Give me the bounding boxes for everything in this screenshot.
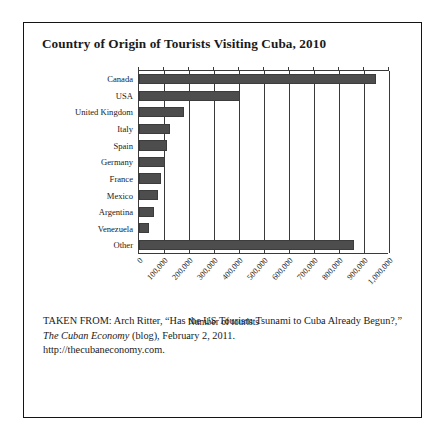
- x-axis-tick: [263, 67, 264, 71]
- bar-row: [139, 170, 388, 187]
- bar-series: [139, 71, 388, 253]
- x-axis-tick: [388, 67, 389, 71]
- x-axis-tick-label: 1,000,000: [388, 232, 417, 262]
- y-axis-label: Mexico: [24, 187, 138, 204]
- y-axis-label: United Kingdom: [24, 104, 138, 121]
- y-axis-label: Venezuela: [24, 221, 138, 238]
- x-axis-tick: [188, 67, 189, 71]
- x-axis-tick: [138, 67, 139, 71]
- y-axis-label: Argentina: [24, 204, 138, 221]
- y-axis-category-labels: CanadaUSAUnited KingdomItalySpainGermany…: [24, 71, 138, 254]
- bar: [139, 207, 154, 217]
- plot-area: [138, 71, 388, 254]
- x-axis-tick-label: 0: [138, 253, 147, 262]
- x-axis-tick: [238, 67, 239, 71]
- y-axis-label: Other: [24, 237, 138, 254]
- x-axis-tick: [163, 67, 164, 71]
- bar-row: [139, 88, 388, 105]
- bar-row: [139, 104, 388, 121]
- bar-row: [139, 121, 388, 138]
- x-axis-tick: [213, 67, 214, 71]
- caption-italic-source: The Cuban Economy: [43, 330, 129, 341]
- bar: [139, 91, 240, 101]
- caption-suffix: (blog), February 2, 2011.: [129, 330, 235, 341]
- bar: [139, 173, 161, 183]
- bar: [139, 74, 376, 84]
- x-axis-tick: [313, 67, 314, 71]
- source-caption: TAKEN FROM: Arch Ritter, “Has the US Tou…: [43, 314, 405, 358]
- bar: [139, 223, 149, 233]
- bar-row: [139, 71, 388, 88]
- x-axis-tick-labels: 0100,000200,000300,000400,000500,000600,…: [138, 256, 388, 308]
- y-axis-label: Spain: [24, 138, 138, 155]
- bar: [139, 190, 158, 200]
- bar-row: [139, 137, 388, 154]
- bar: [139, 157, 165, 167]
- x-axis-tick: [363, 67, 364, 71]
- bar: [139, 124, 170, 134]
- x-axis-tick: [288, 67, 289, 71]
- y-axis-label: Italy: [24, 121, 138, 138]
- bar: [139, 107, 184, 117]
- bar: [139, 140, 167, 150]
- caption-prefix: TAKEN FROM: Arch Ritter, “Has the US Tou…: [43, 315, 402, 326]
- y-axis-label: Canada: [24, 71, 138, 88]
- chart-title: Country of Origin of Tourists Visiting C…: [42, 36, 326, 52]
- plot-wrapper: CanadaUSAUnited KingdomItalySpainGermany…: [24, 71, 422, 281]
- bar-row: [139, 220, 388, 237]
- y-axis-label: Germany: [24, 154, 138, 171]
- figure-panel: Country of Origin of Tourists Visiting C…: [23, 22, 422, 418]
- caption-url: http://thecubaneconomy.com.: [43, 344, 165, 355]
- bar-row: [139, 203, 388, 220]
- bar-row: [139, 154, 388, 171]
- bar-row: [139, 187, 388, 204]
- x-axis-tick: [338, 67, 339, 71]
- y-axis-label: France: [24, 171, 138, 188]
- gridline: [389, 71, 390, 253]
- y-axis-label: USA: [24, 88, 138, 105]
